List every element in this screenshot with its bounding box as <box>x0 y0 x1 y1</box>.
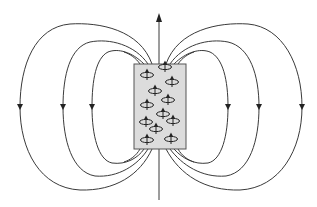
arrow-down-icon <box>60 104 66 110</box>
left-field-loops <box>20 24 152 190</box>
arrow-down-icon <box>225 104 231 110</box>
arrow-down-icon <box>17 104 23 110</box>
arrow-down-icon <box>299 104 305 110</box>
bar-magnet-field-diagram <box>0 0 317 207</box>
arrow-up-icon <box>156 13 162 22</box>
arrow-down-icon <box>256 104 262 110</box>
arrow-down-icon <box>89 104 95 110</box>
